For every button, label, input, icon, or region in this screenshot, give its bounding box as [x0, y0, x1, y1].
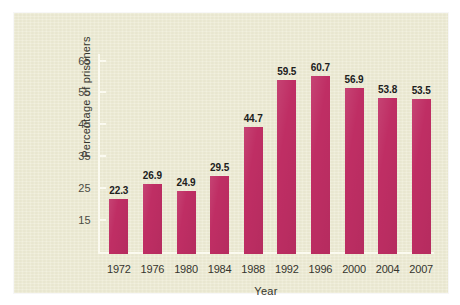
y-axis-tick-label: 45 — [78, 118, 91, 130]
bar-value-label: 29.5 — [210, 162, 229, 173]
x-axis-tick-label: 2007 — [409, 263, 433, 275]
y-axis-tick: 35 — [100, 155, 106, 157]
bar[interactable]: 24.9 — [177, 191, 196, 254]
y-axis-tick-label: 15 — [78, 214, 91, 226]
x-axis-tick-label: 1984 — [208, 263, 232, 275]
bar[interactable]: 26.9 — [143, 184, 162, 254]
y-axis-tick: 55 — [100, 91, 106, 93]
y-axis-tick-label: 55 — [78, 86, 91, 98]
bar[interactable]: 53.8 — [378, 98, 397, 254]
x-axis-tick-label: 2004 — [376, 263, 400, 275]
y-axis-line — [98, 54, 100, 253]
x-axis-tick-label: 2000 — [342, 263, 366, 275]
y-axis-tick: 45 — [100, 123, 106, 125]
bar[interactable]: 53.5 — [412, 99, 431, 254]
bar[interactable]: 22.3 — [109, 199, 128, 254]
bar-value-label: 44.7 — [244, 113, 263, 124]
bar-value-label: 22.3 — [109, 185, 128, 196]
figure: Percentage of prisoners 655545352515 22.… — [0, 0, 460, 305]
bar-value-label: 53.8 — [378, 84, 397, 95]
bar[interactable]: 60.7 — [311, 76, 330, 254]
bar[interactable]: 59.5 — [277, 80, 296, 254]
x-axis-tick-label: 1980 — [174, 263, 198, 275]
x-axis-tick-label: 1976 — [141, 263, 165, 275]
y-axis-tick-label: 35 — [78, 150, 91, 162]
y-axis-tick: 15 — [100, 219, 106, 221]
x-axis-tick-label: 1996 — [309, 263, 333, 275]
x-axis-tick-label: 1972 — [107, 263, 131, 275]
y-axis-tick-label: 25 — [78, 182, 91, 194]
y-axis-tick: 65 — [100, 60, 106, 62]
bar-value-label: 26.9 — [143, 170, 162, 181]
bar[interactable]: 29.5 — [210, 176, 229, 254]
bar-value-label: 53.5 — [412, 85, 431, 96]
y-axis-tick: 25 — [100, 187, 106, 189]
x-axis-tick-label: 1988 — [241, 263, 265, 275]
x-axis-tick-label: 1992 — [275, 263, 299, 275]
chart-panel: Percentage of prisoners 655545352515 22.… — [14, 13, 448, 293]
y-axis-tick-label: 65 — [78, 55, 91, 67]
plot-area: 655545352515 22.3197226.9197624.9198029.… — [98, 49, 434, 254]
bar-value-label: 56.9 — [344, 74, 363, 85]
bar[interactable]: 56.9 — [345, 88, 364, 254]
bar-value-label: 59.5 — [277, 66, 296, 77]
bar-value-label: 24.9 — [176, 177, 195, 188]
x-axis-label: Year — [98, 285, 434, 297]
bar-value-label: 60.7 — [311, 62, 330, 73]
bar[interactable]: 44.7 — [244, 127, 263, 254]
